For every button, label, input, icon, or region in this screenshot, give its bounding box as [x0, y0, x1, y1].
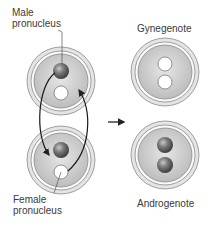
male-pronucleus-icon: [157, 137, 173, 153]
gynegenote-egg: [131, 38, 199, 106]
zygote-top: [27, 47, 95, 115]
male-pronucleus-icon: [157, 157, 173, 173]
gynegenote-label: Gynegenote: [137, 23, 192, 34]
female-label-line2: pronucleus: [13, 205, 62, 216]
female-pronucleus-label: Female pronucleus: [13, 194, 62, 216]
female-pronucleus-icon: [158, 75, 172, 89]
male-pronucleus-icon: [53, 63, 69, 79]
female-pronucleus-icon: [158, 57, 172, 71]
male-label-line1: Male: [12, 7, 61, 18]
male-label-line2: pronucleus: [12, 18, 61, 29]
female-label-line1: Female: [13, 194, 62, 205]
pronuclear-transplant-diagram: Male pronucleus Female pronucleus Gynege…: [0, 0, 211, 232]
female-pronucleus-icon: [54, 86, 68, 100]
androgenote-label: Androgenote: [137, 198, 194, 209]
zygote-bottom: [27, 126, 95, 194]
androgenote-egg: [131, 121, 199, 189]
male-pronucleus-label: Male pronucleus: [12, 7, 61, 29]
male-pronucleus-icon: [53, 142, 69, 158]
